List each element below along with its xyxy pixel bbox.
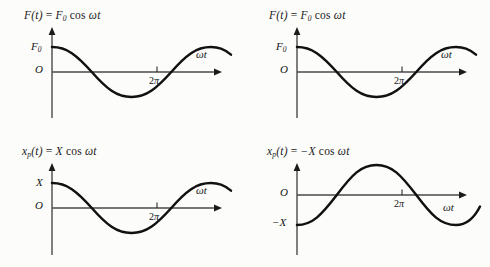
cos-text: cos xyxy=(319,145,335,157)
origin-label: O xyxy=(35,63,43,75)
cos-text: cos xyxy=(70,9,86,21)
panel-top-left: F(t) = F0 cos ωt F0 O ωt 2π xyxy=(0,0,245,133)
equation-label-bottom-left: xp(t) = X cos ωt xyxy=(22,145,97,159)
omega-t-text: ωt xyxy=(334,9,346,21)
equation-label-top-left: F(t) = F0 cos ωt xyxy=(24,9,101,23)
x-tick-label-2pi: 2π xyxy=(149,75,159,86)
y-axis-arrowhead xyxy=(294,27,301,35)
panel-bottom-right: xp(t) = −X cos ωt O −X ωt 2π xyxy=(245,133,490,266)
y-axis-amplitude-label: F0 xyxy=(276,40,286,54)
x-axis-label: ωt xyxy=(196,184,207,196)
y-axis-arrowhead xyxy=(49,27,56,35)
panel-top-right: F(t) = F0 cos ωt F0 O ωt 2π xyxy=(245,0,490,133)
equation-lhs: F(t) xyxy=(24,9,43,21)
origin-label: O xyxy=(280,186,288,198)
origin-label: O xyxy=(35,199,43,211)
y-axis-amplitude-label: X xyxy=(36,176,43,188)
amplitude-symbol: F xyxy=(301,9,308,21)
waveform-figure: F(t) = F0 cos ωt F0 O ωt 2π F(t) = F0 co… xyxy=(0,0,490,267)
x-tick-label-2pi: 2π xyxy=(394,198,404,209)
cos-text: cos xyxy=(66,145,82,157)
x-axis-arrowhead xyxy=(214,69,222,76)
x-axis-arrowhead xyxy=(459,192,467,199)
equation-lhs: F(t) xyxy=(269,9,288,21)
x-tick-label-2pi: 2π xyxy=(394,75,404,86)
x-axis-label: ωt xyxy=(443,201,454,213)
x-tick-label-2pi: 2π xyxy=(149,211,159,222)
x-axis-arrowhead xyxy=(459,69,467,76)
equals-sign: = xyxy=(291,145,298,157)
x-axis-arrowhead xyxy=(214,205,222,212)
y-axis-arrowhead xyxy=(49,163,56,171)
x-axis-label: ωt xyxy=(441,48,452,60)
y-axis-arrowhead xyxy=(294,163,301,171)
panel-bottom-left: xp(t) = X cos ωt X O ωt 2π xyxy=(0,133,245,266)
omega-t-text: ωt xyxy=(89,9,101,21)
amplitude-symbol: F xyxy=(56,9,63,21)
amplitude-symbol: −X xyxy=(301,145,316,157)
origin-label: O xyxy=(280,63,288,75)
omega-t-text: ωt xyxy=(85,145,97,157)
amplitude-symbol: X xyxy=(56,145,63,157)
equation-label-top-right: F(t) = F0 cos ωt xyxy=(269,9,346,23)
x-axis-label: ωt xyxy=(196,48,207,60)
equation-label-bottom-right: xp(t) = −X cos ωt xyxy=(267,145,350,159)
y-axis-amplitude-label: F0 xyxy=(31,40,41,54)
y-axis-negative-amplitude-label: −X xyxy=(272,216,286,228)
cos-text: cos xyxy=(315,9,331,21)
equation-lhs-rest: (t) xyxy=(31,145,42,157)
equation-lhs-rest: (t) xyxy=(276,145,287,157)
equals-sign: = xyxy=(46,145,53,157)
omega-t-text: ωt xyxy=(338,145,350,157)
